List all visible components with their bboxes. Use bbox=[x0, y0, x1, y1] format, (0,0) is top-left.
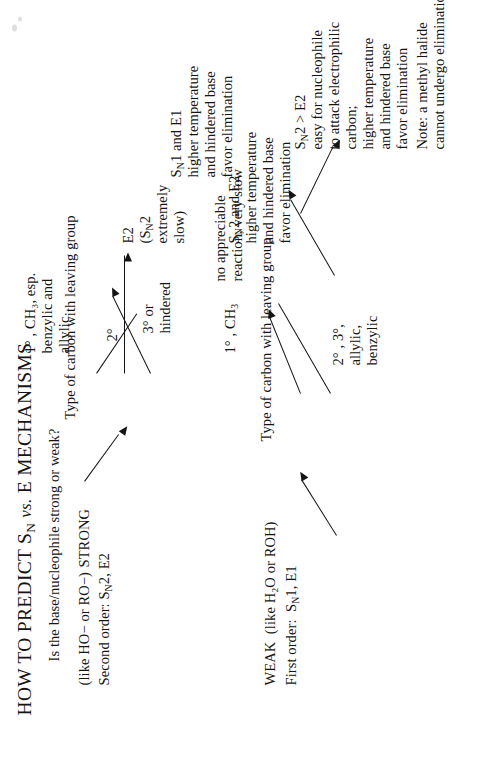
weak-branch2-outcome-head: SN1 and E1 bbox=[168, 109, 184, 177]
strong-connector-line bbox=[84, 434, 119, 482]
weak-order-head: First order: S bbox=[283, 603, 299, 685]
strong-branch1-outcome-line bbox=[300, 146, 334, 213]
methyl-halide-note: Note: a methyl halidecannot undergo elim… bbox=[414, 0, 448, 149]
weak-connector-line bbox=[301, 479, 337, 536]
weak-branch1-condition: 1° , CH3 bbox=[222, 303, 239, 353]
strong-branch1-condition: 1° , CH₃, esp.benzylic andallylic bbox=[22, 272, 73, 353]
weak-order: First order: SN1, E1 bbox=[283, 565, 300, 685]
weak-label: WEAK (like H₂O or ROH) bbox=[262, 521, 279, 685]
page-title-italic: vs. bbox=[16, 498, 35, 517]
strong-branch1-outcome-head: SN2 > E2 bbox=[292, 94, 308, 149]
weak-branch2-outcome: SN1 and E1higher temperatureand hindered… bbox=[168, 65, 236, 177]
strong-branch2-line bbox=[124, 255, 125, 373]
root-question: Is the base/nucleophile strong or weak? bbox=[46, 428, 63, 661]
strong-order-head: Second order: S bbox=[96, 591, 112, 685]
weak-branch2-condition: 2° , 3°,allylic,benzylic bbox=[330, 315, 381, 365]
weak-branch2-outcome-line bbox=[290, 198, 335, 275]
scan-artifact bbox=[18, 16, 22, 21]
weak-branch2-line bbox=[278, 303, 331, 394]
strong-branch3-outcome-paren: (SN2 bbox=[137, 215, 153, 243]
rotated-page-frame: HOW TO PREDICT SN vs. E MECHANISMS Is th… bbox=[0, 0, 478, 773]
weak-connector-arrowhead bbox=[297, 469, 309, 481]
strong-branch1-line bbox=[96, 313, 137, 373]
strong-branch3-condition: 3° orhindered bbox=[140, 281, 174, 333]
strong-branch1-outcome: SN2 > E2easy for nucleophileto attack el… bbox=[292, 21, 411, 149]
weak-order-sub: N bbox=[290, 596, 301, 603]
weak-carbon-prompt: Type of carbon with leaving group bbox=[258, 237, 275, 441]
flowchart-canvas: HOW TO PREDICT SN vs. E MECHANISMS Is th… bbox=[0, 0, 478, 773]
weak-order-tail: 1, E1 bbox=[283, 565, 299, 596]
strong-branch2-arrowhead bbox=[124, 252, 132, 261]
page-title-sub: N bbox=[23, 522, 38, 532]
page-title-part1: HOW TO PREDICT S bbox=[14, 532, 35, 715]
page-title-part2: E MECHANISMS bbox=[14, 342, 35, 492]
strong-branch3-outcome: E2(SN2extremelyslow) bbox=[120, 184, 188, 243]
strong-order: Second order: SN2, E2 bbox=[96, 553, 113, 685]
weak-parenthetical: (like H₂O or ROH) bbox=[262, 521, 278, 634]
strong-branch2-condition: 2° bbox=[104, 328, 121, 341]
page-title: HOW TO PREDICT SN vs. E MECHANISMS bbox=[14, 342, 37, 715]
strong-order-sub: N bbox=[103, 584, 114, 591]
strong-order-tail: 2, E2 bbox=[96, 553, 112, 584]
scan-artifact bbox=[12, 24, 17, 31]
weak-branch1-outcome: no appreciablereaction, very slow bbox=[212, 168, 246, 281]
strong-branch3-arrowhead bbox=[108, 285, 119, 297]
strong-parenthetical: (like HO− or RO−) bbox=[76, 572, 93, 686]
strong-connector-arrowhead bbox=[119, 423, 131, 435]
strong-label: STRONG bbox=[76, 508, 93, 567]
weak-label-text: WEAK bbox=[262, 641, 278, 685]
